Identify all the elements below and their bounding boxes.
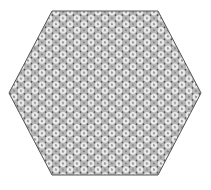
hexagon-overlay bbox=[9, 11, 201, 175]
hexagon-pattern-figure bbox=[0, 0, 211, 190]
